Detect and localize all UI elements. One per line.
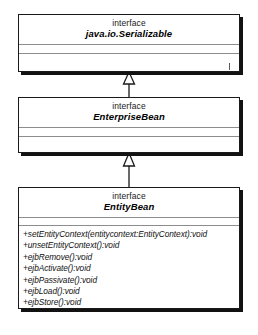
class-header-entitybean: interface EntityBean [19,188,239,218]
class-box-enterprisebean[interactable]: interface EnterpriseBean [18,97,240,153]
class-operations-entitybean: +setEntityContext(entitycontext:EntityCo… [19,226,239,311]
class-header-serializable: interface java.io.Serializable [19,15,239,45]
class-name: EnterpriseBean [23,111,235,123]
class-header-enterprisebean: interface EnterpriseBean [19,98,239,128]
class-attributes-entitybean [19,218,239,226]
operations-list: +setEntityContext(entitycontext:EntityCo… [19,226,239,311]
operation-item: +ejbPassivate():void [23,275,239,286]
class-box-serializable[interactable]: interface java.io.Serializable [18,14,240,72]
class-stereotype: interface [23,101,235,111]
operation-item: +unsetEntityContext():void [23,240,239,251]
operation-item: +ejbLoad():void [23,286,239,297]
operation-item: +setEntityContext(entitycontext:EntityCo… [23,229,239,240]
class-attributes-serializable [19,45,239,54]
class-attributes-enterprisebean [19,128,239,137]
uml-class-diagram: interface java.io.Serializable interface… [0,0,258,335]
class-operations-serializable [19,54,239,74]
class-operations-enterprisebean [19,137,239,155]
generalization-enterprisebean-to-serializable [124,72,135,97]
operation-item: +ejbActivate():void [23,263,239,274]
class-box-entitybean[interactable]: interface EntityBean +setEntityContext(e… [18,187,240,309]
class-stereotype: interface [23,18,235,28]
operation-item: +ejbRemove():void [23,252,239,263]
generalization-entitybean-to-enterprisebean [124,153,135,187]
operation-item: +ejbStore():void [23,297,239,308]
tick-mark-icon [229,63,230,70]
class-name: EntityBean [23,201,235,213]
class-stereotype: interface [23,191,235,201]
class-name: java.io.Serializable [23,28,235,40]
